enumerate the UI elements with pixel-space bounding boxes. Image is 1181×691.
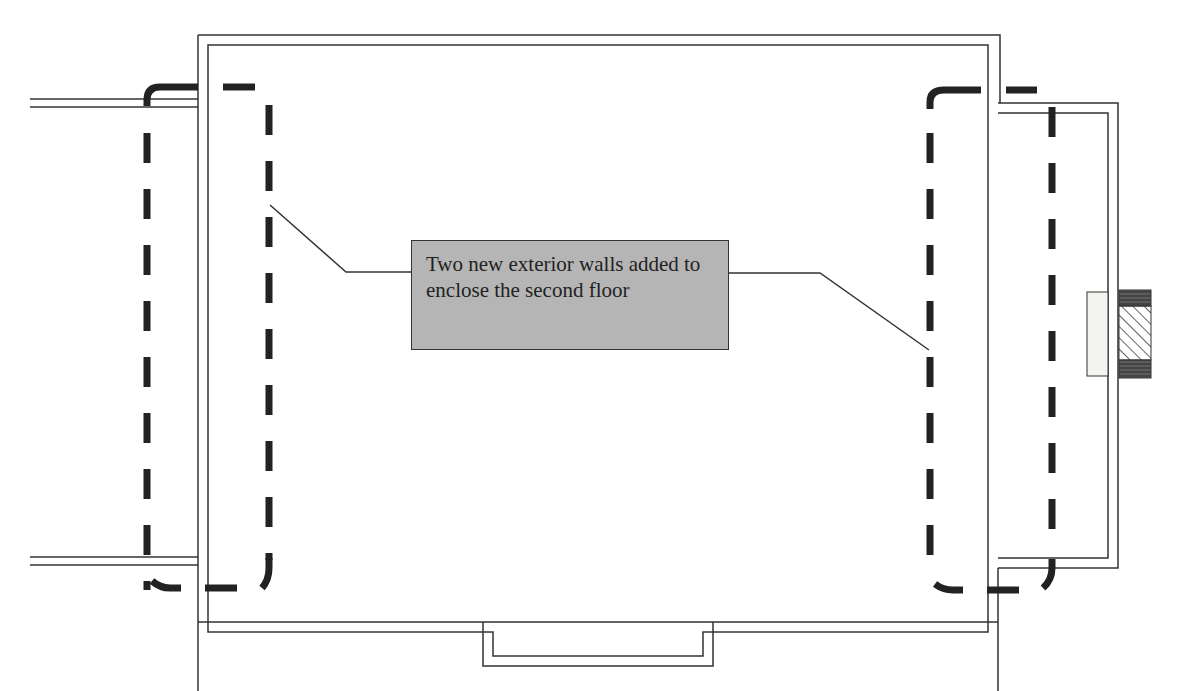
left-pipes (30, 99, 198, 565)
callout-text: Two new exterior walls added to enclose … (426, 252, 700, 302)
main-building-outline (198, 35, 1000, 691)
wall-section-detail (1087, 290, 1151, 378)
callout-box: Two new exterior walls added to enclose … (411, 240, 729, 350)
right-new-wall-dashed (930, 90, 1052, 590)
